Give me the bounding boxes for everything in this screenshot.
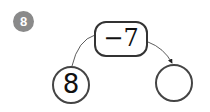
arc-left — [72, 35, 95, 66]
result-answer-circle[interactable] — [155, 64, 193, 102]
operation-box: −7 — [94, 21, 148, 57]
start-value-circle: 8 — [52, 66, 90, 104]
arrow-right-icon — [148, 42, 172, 63]
